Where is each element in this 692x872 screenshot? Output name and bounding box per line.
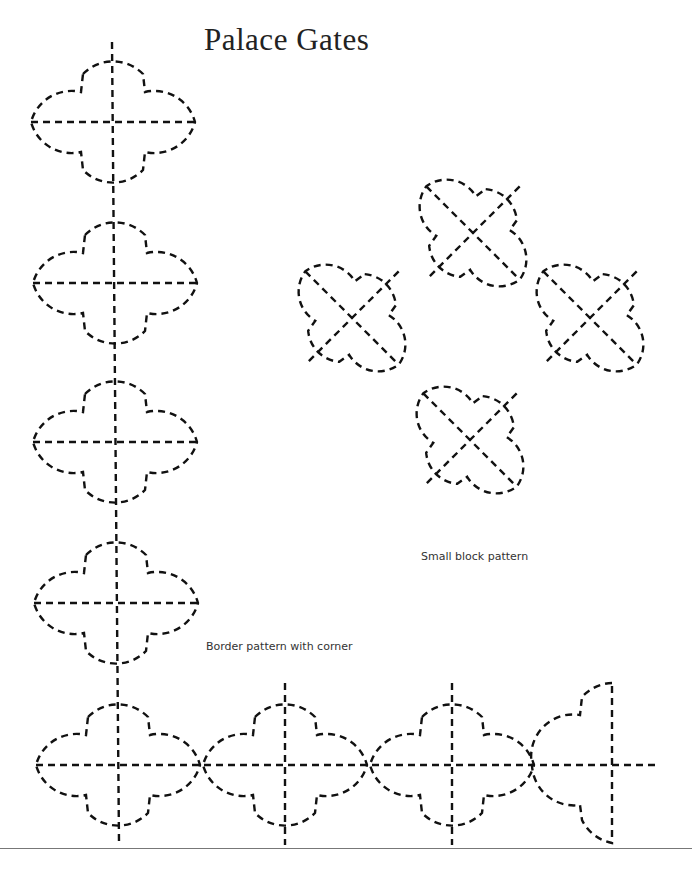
block-unit-left [259, 225, 446, 412]
small-block-caption: Small block pattern [421, 550, 528, 563]
block-unit-bottom [377, 347, 564, 534]
border-pattern-caption: Border pattern with corner [206, 640, 353, 653]
quilt-pattern-artwork [0, 0, 692, 872]
page-divider [0, 848, 692, 849]
border-half-unit [531, 683, 612, 843]
block-unit-top [380, 140, 567, 327]
